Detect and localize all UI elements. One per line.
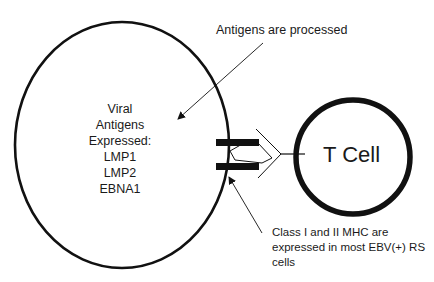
viral-antigens-line: Antigens xyxy=(72,117,168,133)
arrow-antigens-processed xyxy=(178,43,263,119)
arrow-mhc-expressed xyxy=(229,177,262,233)
mhc-bar-lower xyxy=(216,163,259,170)
antigens-processed-annotation: Antigens are processed xyxy=(216,23,347,37)
t-cell-receptor-shape xyxy=(256,129,281,178)
antigen-lmp1: LMP1 xyxy=(72,149,168,165)
viral-antigens-label: Viral Antigens Expressed: LMP1 LMP2 EBNA… xyxy=(72,101,168,197)
mhc-expression-annotation: Class I and II MHC are expressed in most… xyxy=(272,225,432,270)
viral-antigens-line: Viral xyxy=(72,101,168,117)
antigen-ebna1: EBNA1 xyxy=(72,181,168,197)
antigen-lmp2: LMP2 xyxy=(72,165,168,181)
viral-antigens-line: Expressed: xyxy=(72,133,168,149)
t-cell-label: T Cell xyxy=(323,142,380,168)
